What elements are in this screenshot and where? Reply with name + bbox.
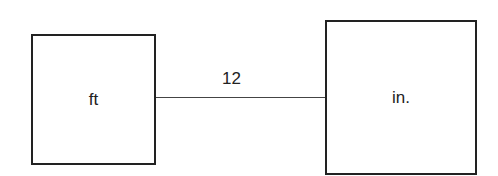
feet-box: ft	[31, 34, 156, 165]
inches-label: in.	[392, 88, 410, 108]
connector-line	[156, 97, 325, 98]
connector-label: 12	[222, 69, 241, 89]
inches-box: in.	[325, 20, 477, 175]
feet-label: ft	[89, 90, 98, 110]
